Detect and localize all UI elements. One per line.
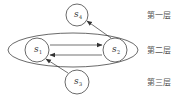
edge-s2-to-s4 xyxy=(87,21,111,38)
node-s3-subscript: 3 xyxy=(79,81,82,87)
node-s3: s 3 xyxy=(65,70,89,94)
layer-1-label: 第一层 xyxy=(147,10,171,20)
node-s2-subscript: 2 xyxy=(117,49,120,55)
node-s1-subscript: 1 xyxy=(39,49,42,55)
node-s1: s 1 xyxy=(25,38,49,62)
node-s4-subscript: 4 xyxy=(79,14,82,20)
node-s4: s 4 xyxy=(66,4,88,26)
layer-3-label: 第三层 xyxy=(147,77,171,87)
node-s2: s 2 xyxy=(103,38,127,62)
layer-2-label: 第二层 xyxy=(147,45,171,55)
layered-graph-diagram: s 4 s 1 s 2 s 3 第一层 第二层 第三层 xyxy=(0,0,187,101)
